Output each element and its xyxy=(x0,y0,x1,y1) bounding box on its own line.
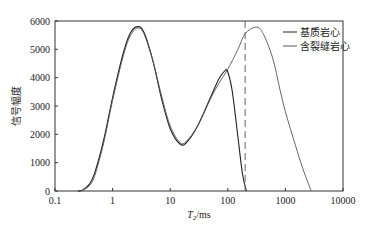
x-tick-label: 0.1 xyxy=(49,195,62,206)
x-tick-label: 10000 xyxy=(331,195,356,206)
x-tick-label: 10 xyxy=(165,195,175,206)
x-axis-title: T2/ms xyxy=(187,209,211,222)
legend-label: 基质岩心 xyxy=(300,26,340,38)
y-axis: 0100020003000400050006000 xyxy=(30,16,58,197)
legend: 基质岩心含裂缝岩心 xyxy=(283,26,350,52)
legend-label: 含裂缝岩心 xyxy=(300,40,350,52)
series-matrix-core-line xyxy=(78,27,246,191)
nmr-t2-chart: 0100020003000400050006000 0.111010010001… xyxy=(0,0,366,233)
series-layer xyxy=(78,27,311,191)
x-tick-label: 1000 xyxy=(275,195,295,206)
y-axis-title: 信号幅度 xyxy=(10,86,22,126)
series-fractured-core-line xyxy=(78,27,311,191)
y-tick-label: 6000 xyxy=(30,16,50,27)
x-tick-label: 100 xyxy=(220,195,235,206)
y-tick-label: 3000 xyxy=(30,101,50,112)
y-tick-label: 4000 xyxy=(30,72,50,83)
x-axis-title-unit: /ms xyxy=(196,209,211,220)
x-tick-label: 1 xyxy=(110,195,115,206)
y-tick-label: 5000 xyxy=(30,44,50,55)
y-tick-label: 1000 xyxy=(30,157,50,168)
y-tick-label: 2000 xyxy=(30,129,50,140)
